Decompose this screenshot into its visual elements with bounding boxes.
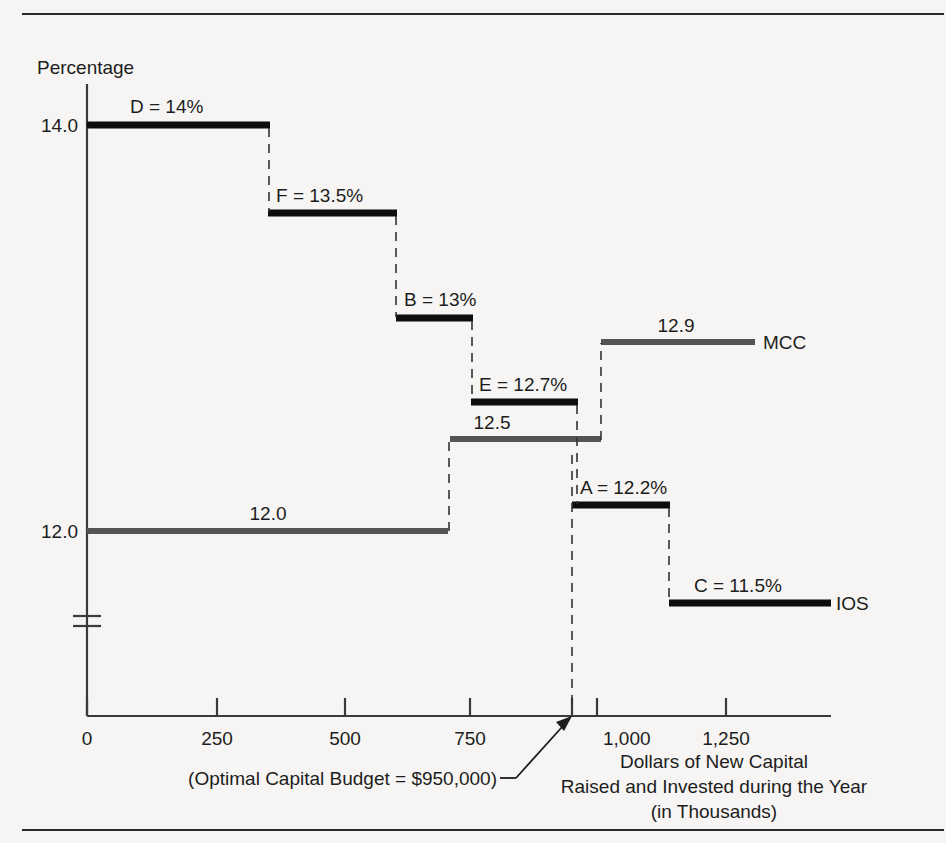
- ios-label-d: D = 14%: [130, 96, 204, 117]
- x-axis-caption-line-1: Dollars of New Capital: [620, 751, 808, 772]
- y-axis-title: Percentage: [37, 57, 134, 78]
- ios-series-label: IOS: [836, 593, 869, 614]
- x-axis-caption-line-3: (in Thousands): [651, 801, 777, 822]
- mcc-series-label: MCC: [763, 332, 806, 353]
- ios-label-f: F = 13.5%: [276, 185, 363, 206]
- x-tick-label-250: 250: [201, 728, 233, 749]
- optimal-budget-pointer-line: [516, 727, 562, 778]
- y-tick-label-12: 12.0: [41, 521, 78, 542]
- ios-label-e: E = 12.7%: [479, 374, 567, 395]
- mcc-label-12-5: 12.5: [474, 412, 511, 433]
- mcc-label-12-0: 12.0: [250, 503, 287, 524]
- x-tick-label-1250: 1,250: [702, 728, 750, 749]
- figure-container: 0 250 500 750 1,000 1,250 Percentage 14.…: [0, 0, 946, 843]
- x-axis-caption-line-2: Raised and Invested during the Year: [561, 776, 868, 797]
- y-tick-label-14: 14.0: [41, 115, 78, 136]
- mcc-ios-schedule-chart: 0 250 500 750 1,000 1,250 Percentage 14.…: [0, 0, 946, 843]
- x-tick-label-750: 750: [454, 728, 486, 749]
- optimal-budget-pointer-arrowhead: [556, 716, 572, 731]
- x-tick-label-500: 500: [329, 728, 361, 749]
- mcc-label-12-9: 12.9: [658, 315, 695, 336]
- ios-label-b: B = 13%: [404, 289, 476, 310]
- optimal-budget-note: (Optimal Capital Budget = $950,000): [188, 768, 497, 789]
- x-tick-label-0: 0: [82, 728, 93, 749]
- x-tick-label-1000: 1,000: [603, 728, 651, 749]
- ios-label-c: C = 11.5%: [694, 575, 782, 596]
- ios-label-a: A = 12.2%: [580, 477, 667, 498]
